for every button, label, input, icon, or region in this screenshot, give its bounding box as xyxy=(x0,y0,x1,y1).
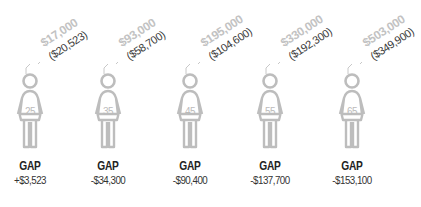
gap-value: -$137,700 xyxy=(240,174,300,186)
age-label: 25 xyxy=(16,106,44,117)
gap-title: GAP xyxy=(245,159,296,173)
age-figure: $330,000 ($192,300) 55 GAP -$137,700 xyxy=(244,0,324,207)
gap-value: +$3,523 xyxy=(0,174,60,186)
gap-value: -$34,300 xyxy=(78,174,138,186)
gap-title: GAP xyxy=(83,159,134,173)
age-label: 65 xyxy=(338,106,366,117)
gap-value: -$153,100 xyxy=(322,174,382,186)
age-figure: $93,000 ($58,700) 35 GAP -$34,300 xyxy=(82,0,162,207)
age-figure: $195,000 ($104,600) 45 GAP -$90,400 xyxy=(164,0,244,207)
age-label: 55 xyxy=(256,106,284,117)
gap-value: -$90,400 xyxy=(160,174,220,186)
age-figure: $17,000 ($20,523) 25 GAP +$3,523 xyxy=(4,0,84,207)
age-figure: $503,000 ($349,900) 65 GAP -$153,100 xyxy=(326,0,406,207)
age-label: 35 xyxy=(94,106,122,117)
salary-labels: $503,000 ($349,900) xyxy=(330,0,421,70)
gap-title: GAP xyxy=(5,159,56,173)
gap-title: GAP xyxy=(165,159,216,173)
age-label: 45 xyxy=(176,106,204,117)
gap-title: GAP xyxy=(327,159,378,173)
